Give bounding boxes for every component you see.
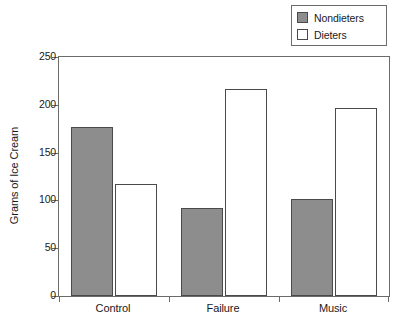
y-tick-label: 250 bbox=[39, 50, 56, 63]
x-category-label-music: Music bbox=[278, 302, 388, 315]
y-tick-label: 200 bbox=[39, 98, 56, 111]
bar-music-nondieters bbox=[291, 199, 333, 297]
legend-entry-nondieters: Nondieters bbox=[297, 9, 382, 26]
chart-legend: Nondieters Dieters bbox=[291, 5, 387, 46]
x-category-label-failure: Failure bbox=[168, 302, 278, 315]
bar-chart-figure: Nondieters Dieters Grams of Ice Cream 25… bbox=[0, 0, 399, 329]
bar-failure-nondieters bbox=[181, 208, 223, 296]
y-axis-title: Grams of Ice Cream bbox=[8, 56, 26, 295]
x-tick-mark bbox=[388, 296, 389, 302]
bar-music-dieters bbox=[335, 108, 377, 296]
legend-label-nondieters: Nondieters bbox=[314, 12, 364, 24]
y-tick-label: 50 bbox=[45, 241, 56, 254]
legend-swatch-dieters-icon bbox=[297, 29, 308, 40]
legend-swatch-nondieters-icon bbox=[297, 12, 308, 23]
y-tick-label: 150 bbox=[39, 146, 56, 159]
plot-area: 250 200 150 100 50 0 bbox=[58, 56, 390, 297]
bar-control-nondieters bbox=[71, 127, 113, 296]
legend-label-dieters: Dieters bbox=[314, 29, 347, 41]
y-tick-label: 0 bbox=[50, 289, 56, 302]
legend-entry-dieters: Dieters bbox=[297, 26, 382, 43]
bar-failure-dieters bbox=[225, 89, 267, 296]
bar-control-dieters bbox=[115, 184, 157, 296]
x-category-label-control: Control bbox=[58, 302, 168, 315]
y-tick-label: 100 bbox=[39, 193, 56, 206]
